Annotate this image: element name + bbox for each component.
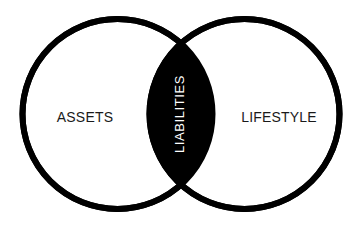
liabilities-label: LIABILITIES [172,75,187,153]
venn-diagram-canvas: ASSETS LIFESTYLE LIABILITIES [0,0,363,227]
assets-label: ASSETS [57,109,113,125]
lifestyle-label: LIFESTYLE [241,109,317,125]
venn-diagram: ASSETS LIFESTYLE LIABILITIES [0,0,363,227]
